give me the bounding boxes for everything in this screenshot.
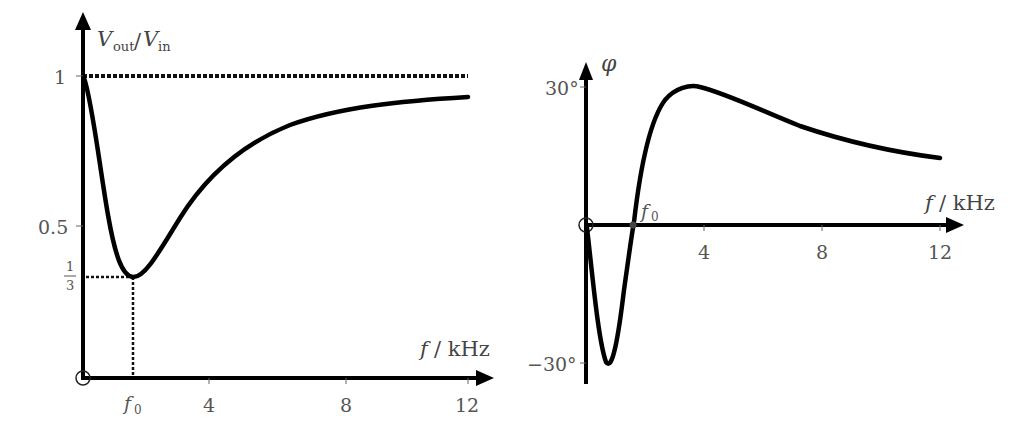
y-axis-label-sub-out: out (113, 39, 135, 54)
x-axis-arrow-icon (476, 370, 494, 386)
y-axis-label-slash: / (134, 29, 142, 53)
y-axis-label-v-out: V (97, 27, 114, 51)
y-tick-label-1: 1 (54, 66, 66, 88)
x-tick-label-12: 12 (928, 241, 952, 263)
x-tick-label-4: 4 (698, 241, 710, 263)
x-axis-label-f: f (923, 191, 936, 215)
f0-label: f (639, 200, 651, 222)
x-tick-label-8: 8 (340, 394, 352, 416)
x-axis-label-unit: / kHz (939, 191, 995, 215)
x-tick-label-f0: f (122, 392, 134, 414)
y-tick-label-neg-30: −30° (527, 353, 577, 375)
x-tick-label-f0-sub: 0 (134, 403, 142, 417)
x-tick-label-4: 4 (203, 394, 215, 416)
y-tick-label-third-den: 3 (66, 278, 74, 293)
y-axis-label-sub-in: in (158, 39, 171, 54)
y-axis-arrow-icon (75, 12, 91, 30)
f0-label-sub: 0 (651, 210, 659, 224)
magnitude-chart: 1 0.5 1 3 f 0 4 8 12 V out / V in f / kH… (38, 12, 494, 417)
x-tick-label-8: 8 (816, 241, 828, 263)
y-axis-arrow-icon (579, 62, 593, 80)
magnitude-curve (84, 78, 468, 277)
x-axis-label-f: f (418, 337, 431, 361)
f0-crossing-point (630, 222, 637, 229)
x-axis-label-unit: / kHz (434, 337, 490, 361)
y-tick-label-half: 0.5 (38, 216, 68, 238)
y-axis-label-phi: φ (601, 51, 617, 76)
x-tick-label-12: 12 (455, 394, 479, 416)
y-tick-label-30: 30° (545, 77, 579, 99)
x-axis-arrow-icon (946, 217, 964, 233)
y-tick-label-third-num: 1 (66, 259, 74, 274)
figure: 1 0.5 1 3 f 0 4 8 12 V out / V in f / kH… (0, 0, 1030, 432)
phase-chart: 30° −30° 4 8 12 f 0 φ f / kHz (527, 51, 995, 384)
